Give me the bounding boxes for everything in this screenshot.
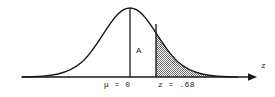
x-axis-label: z [261,62,266,70]
mean-tick-label: μ = 0 [104,81,131,89]
cutoff-tick-label: z = .68 [158,81,195,89]
area-label: A [136,47,141,55]
normal-distribution-figure: μ = 0 z = .68 A z [0,0,275,97]
shaded-tail-region [156,0,238,78]
x-axis-arrowhead [248,73,257,81]
